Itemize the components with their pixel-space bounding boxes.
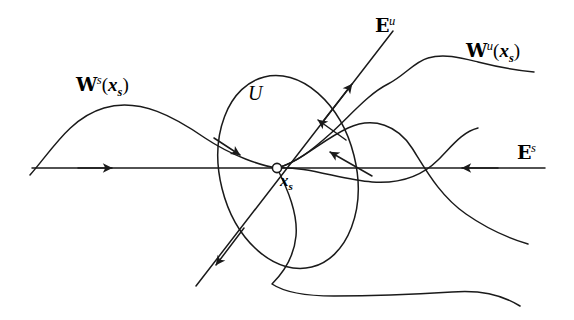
stable-manifold-variable: x — [108, 74, 118, 95]
neighbourhood-label: U — [248, 83, 262, 103]
fixed-point-label: xs — [280, 172, 293, 193]
stable-manifold-letter: W — [76, 73, 97, 95]
unstable-manifold-variable: x — [499, 40, 509, 61]
unstable-eigenspace-label: Eu — [375, 15, 395, 35]
stable-manifold-label: Ws(xs) — [76, 74, 129, 99]
unstable-manifold-label: Wu(xs) — [466, 40, 520, 65]
unstable-manifold-lower-branch — [272, 168, 520, 306]
stable-eigenspace-superscript: s — [531, 141, 536, 155]
stable-manifold-close-paren: ) — [122, 74, 128, 95]
stable-eigenspace-label: Es — [517, 142, 536, 162]
unstable-manifold-arrow-middle — [330, 152, 372, 176]
unstable-eigenspace-arrow-lower — [216, 228, 244, 265]
manifold-diagram: Ws(xs) Wu(xs) Eu Es U xs — [0, 0, 574, 320]
unstable-manifold-upper-branch — [277, 56, 534, 168]
stable-eigenspace-letter: E — [517, 141, 531, 163]
unstable-eigenspace-superscript: u — [389, 14, 395, 28]
fixed-point-subscript: s — [289, 180, 293, 192]
unstable-manifold-incoming-curve — [277, 128, 478, 182]
unstable-manifold-close-paren: ) — [514, 40, 520, 61]
unstable-manifold-letter: W — [466, 39, 487, 61]
stable-manifold-left-branch — [30, 105, 277, 175]
fixed-point-variable: x — [280, 171, 289, 190]
stable-manifold-right-branch — [277, 123, 528, 244]
unstable-eigenspace-letter: E — [375, 14, 389, 36]
unstable-eigenspace-arrow-upper — [324, 84, 352, 120]
